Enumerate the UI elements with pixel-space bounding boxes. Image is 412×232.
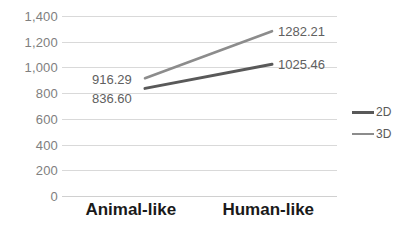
line-chart: 1,400 1,200 1,000 800 600 400 200 0 916.… <box>0 0 412 232</box>
legend-entry-3d[interactable]: 3D <box>352 123 412 145</box>
x-axis-categories: Animal-like Human-like <box>62 200 337 230</box>
data-label-2d-human: 1025.46 <box>278 58 325 71</box>
category-label-human-like: Human-like <box>200 200 338 230</box>
data-label-2d-animal: 836.60 <box>92 92 132 105</box>
y-axis-tick-200: 200 <box>0 164 58 177</box>
legend-entry-2d[interactable]: 2D <box>352 101 412 123</box>
legend-swatch-3d <box>352 133 374 135</box>
legend-label-2d: 2D <box>376 106 391 118</box>
y-axis-tick-1200: 1,200 <box>0 36 58 49</box>
y-axis-tick-800: 800 <box>0 87 58 100</box>
legend-swatch-2d <box>352 111 374 114</box>
series-line-2d <box>145 64 272 88</box>
data-label-3d-animal: 916.29 <box>92 73 132 86</box>
y-axis-tick-1400: 1,400 <box>0 10 58 23</box>
plot-area <box>62 16 337 196</box>
y-axis-tick-600: 600 <box>0 113 58 126</box>
gridline-0 <box>62 196 337 197</box>
series-line-3d <box>145 31 272 78</box>
data-label-3d-human: 1282.21 <box>278 25 325 38</box>
legend: 2D 3D <box>352 101 412 145</box>
category-label-animal-like: Animal-like <box>62 200 200 230</box>
y-axis-tick-400: 400 <box>0 139 58 152</box>
y-axis-tick-0: 0 <box>0 190 58 203</box>
series-lines <box>62 16 337 196</box>
legend-label-3d: 3D <box>376 128 391 140</box>
y-axis-tick-1000: 1,000 <box>0 61 58 74</box>
